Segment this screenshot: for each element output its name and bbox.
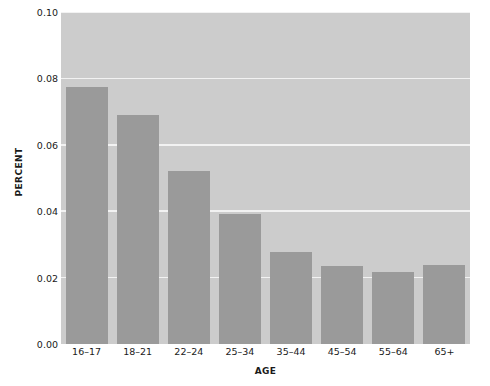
y-tick-label: 0.02	[37, 272, 58, 283]
x-axis-title: AGE	[61, 366, 470, 376]
x-tick-label: 18–21	[123, 346, 152, 357]
x-tick-label: 25–34	[225, 346, 254, 357]
bar	[321, 266, 363, 344]
bar	[423, 265, 465, 344]
bar	[219, 214, 261, 344]
y-tick-label: 0.00	[37, 339, 58, 350]
y-axis-tick-labels: 0.000.020.040.060.080.10	[24, 12, 58, 344]
bar	[168, 171, 210, 344]
bar-chart-figure: PERCENT 0.000.020.040.060.080.10 16–1718…	[0, 0, 490, 386]
x-tick-label: 22–24	[174, 346, 203, 357]
bar	[270, 252, 312, 344]
gridline	[61, 78, 470, 80]
bar	[372, 272, 414, 344]
y-tick-label: 0.10	[37, 7, 58, 18]
bar	[66, 87, 108, 344]
gridline	[61, 12, 470, 13]
bar	[117, 115, 159, 344]
y-axis-title-text: PERCENT	[14, 148, 24, 197]
x-tick-label: 65+	[434, 346, 454, 357]
plot-area	[61, 12, 470, 344]
y-tick-label: 0.08	[37, 73, 58, 84]
y-tick-label: 0.06	[37, 139, 58, 150]
x-axis-tick-labels: 16–1718–2122–2425–3435–4445–5455–6465+	[61, 346, 470, 364]
x-tick-label: 35–44	[277, 346, 306, 357]
x-tick-label: 45–54	[328, 346, 357, 357]
x-tick-label: 55–64	[379, 346, 408, 357]
x-tick-label: 16–17	[72, 346, 101, 357]
y-tick-label: 0.04	[37, 206, 58, 217]
